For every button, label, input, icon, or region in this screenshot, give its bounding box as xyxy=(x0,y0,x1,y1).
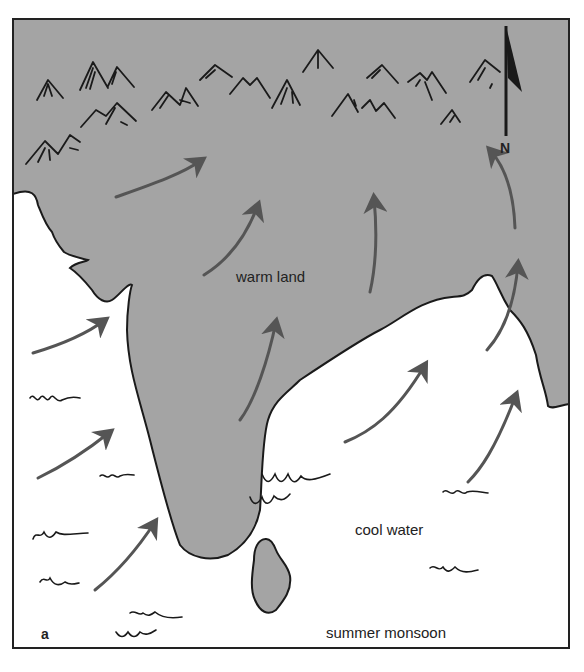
panel-label: a xyxy=(41,626,49,642)
water-label: cool water xyxy=(355,521,423,538)
land-label: warm land xyxy=(236,268,305,285)
caption-label: summer monsoon xyxy=(326,624,446,641)
monsoon-map xyxy=(0,0,584,672)
north-label: N xyxy=(500,140,510,156)
